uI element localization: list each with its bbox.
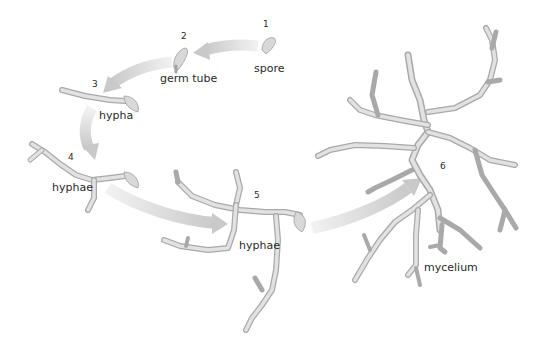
stage-6-number: 6 xyxy=(440,162,446,171)
arrow-4-to-5 xyxy=(108,188,228,234)
stage-4-label: hyphae xyxy=(52,182,93,193)
germ-tube-illustration xyxy=(174,48,188,72)
spore-illustration xyxy=(262,38,276,54)
fungal-life-cycle-diagram: 1 spore 2 germ tube 3 hypha 4 hyphae 5 h… xyxy=(0,0,545,362)
stage-1-label: spore xyxy=(254,63,285,74)
arrow-5-to-6 xyxy=(312,178,422,228)
stage-3-label: hypha xyxy=(99,110,133,121)
stage-1-number: 1 xyxy=(263,20,269,29)
stage-6-label: mycelium xyxy=(424,262,478,273)
mycelium-illustration xyxy=(318,28,516,285)
stage-3-number: 3 xyxy=(92,80,98,89)
stage-4-number: 4 xyxy=(68,153,74,162)
arrow-3-to-4 xyxy=(82,108,99,160)
arrow-1-to-2 xyxy=(193,42,258,60)
stage-5-number: 5 xyxy=(254,191,260,200)
hyphae-stage5-illustration xyxy=(164,172,305,330)
stage-2-number: 2 xyxy=(181,32,187,41)
stage-2-label: germ tube xyxy=(160,73,217,84)
stage-5-label: hyphae xyxy=(239,240,280,251)
